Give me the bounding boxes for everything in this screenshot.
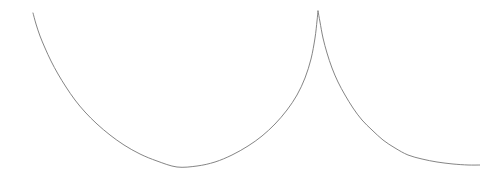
figure-canvas <box>0 0 480 181</box>
figure-background <box>0 0 480 181</box>
cycloid-curve-svg <box>0 0 480 181</box>
